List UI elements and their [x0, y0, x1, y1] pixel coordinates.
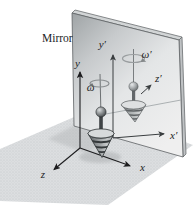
y-axis-label: y: [74, 57, 80, 69]
x-axis-label: x: [139, 161, 145, 173]
top-stem: [99, 116, 103, 130]
cone-top-face: [88, 129, 114, 138]
physics-mirror-top-figure: y′ x′ z′ ω′ Mirror: [0, 0, 194, 215]
figure-canvas: y′ x′ z′ ω′ Mirror: [0, 0, 194, 215]
x-prime-label: x′: [169, 129, 178, 141]
reflected-cone-top-face: [121, 101, 145, 110]
top-ball: [96, 107, 106, 117]
omega-label: ω: [87, 81, 95, 93]
reflected-top-ball: [129, 82, 138, 91]
omega-prime-label: ω′: [142, 48, 153, 60]
mirror-caption: Mirror: [42, 32, 73, 44]
z-prime-label: z′: [154, 72, 162, 84]
y-prime-label: y′: [98, 38, 107, 50]
z-axis-label: z: [40, 168, 46, 180]
